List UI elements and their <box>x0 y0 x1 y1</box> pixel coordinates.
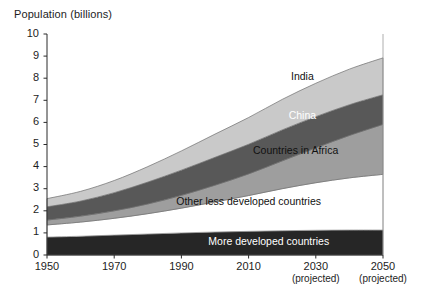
y-tick-label: 1 <box>17 225 39 237</box>
y-tick-label: 5 <box>17 137 39 149</box>
series-label: China <box>289 109 316 121</box>
y-tick-label: 7 <box>17 93 39 105</box>
footer-strip <box>0 276 427 285</box>
chart-figure: Population (billions) 012345678910 19501… <box>0 0 427 285</box>
x-tick-label: 1970 <box>79 260 149 272</box>
y-tick-label: 2 <box>17 203 39 215</box>
series-label: More developed countries <box>208 235 329 247</box>
y-tick-label: 9 <box>17 49 39 61</box>
x-tick-label: 1990 <box>146 260 216 272</box>
series-label: Countries in Africa <box>253 144 338 156</box>
y-tick-label: 6 <box>17 115 39 127</box>
x-tick-label: 2030 <box>281 260 351 272</box>
series-label: India <box>291 70 314 82</box>
x-tick-label: 1950 <box>12 260 82 272</box>
x-tick-label: 2010 <box>214 260 284 272</box>
y-tick-label: 8 <box>17 71 39 83</box>
y-tick-label: 4 <box>17 159 39 171</box>
y-tick-label: 3 <box>17 181 39 193</box>
series-label: Other less developed countries <box>176 195 321 207</box>
y-tick-label: 0 <box>17 248 39 260</box>
y-tick-label: 10 <box>17 27 39 39</box>
x-tick-label: 2050 <box>348 260 418 272</box>
